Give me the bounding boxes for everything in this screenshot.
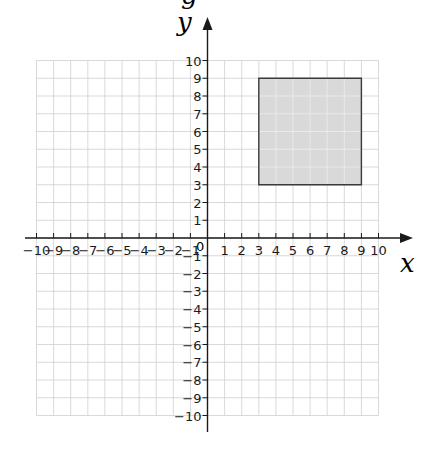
y-tick-label: −10	[174, 409, 201, 424]
x-axis-arrow-icon	[400, 233, 413, 243]
x-axis-title: x	[400, 248, 415, 278]
y-tick-label: −2	[182, 267, 201, 282]
coordinate-grid-figure: −10−9−8−7−6−5−4−3−2−112345678910−10−9−8−…	[0, 0, 429, 454]
y-tick-label: −6	[182, 338, 201, 353]
y-tick-label: −4	[182, 302, 201, 317]
x-tick-label: 2	[238, 243, 246, 258]
x-tick-label: 1	[220, 243, 228, 258]
y-tick-label: 10	[185, 54, 202, 69]
x-tick-label: 9	[357, 243, 365, 258]
y-tick-label: 6	[193, 125, 201, 140]
y-tick-label: −3	[182, 284, 201, 299]
x-tick-label: 5	[289, 243, 297, 258]
y-tick-label: −5	[182, 320, 201, 335]
y-tick-label: 1	[193, 213, 201, 228]
x-tick-label: 7	[323, 243, 331, 258]
x-tick-label: 8	[340, 243, 348, 258]
y-axis-arrow-icon	[203, 17, 213, 30]
y-tick-label: 3	[193, 178, 201, 193]
shaded-square	[259, 78, 362, 185]
x-tick-label: 10	[370, 243, 387, 258]
y-tick-label: 8	[193, 89, 201, 104]
coordinate-plane: −10−9−8−7−6−5−4−3−2−112345678910−10−9−8−…	[0, 0, 429, 454]
y-tick-label: 5	[193, 142, 201, 157]
cropped-heading-text: g	[181, 0, 198, 10]
y-tick-label: −8	[182, 373, 201, 388]
y-tick-label: −9	[182, 391, 201, 406]
x-tick-label: 4	[272, 243, 280, 258]
y-tick-label: 7	[193, 107, 201, 122]
y-tick-label: 9	[193, 71, 201, 86]
origin-label: 0	[196, 239, 204, 254]
y-axis-title: y	[176, 7, 192, 37]
y-tick-label: −7	[182, 355, 201, 370]
x-tick-label: 6	[306, 243, 314, 258]
y-tick-label: 2	[193, 196, 201, 211]
x-tick-label: 3	[255, 243, 263, 258]
y-tick-label: 4	[193, 160, 201, 175]
